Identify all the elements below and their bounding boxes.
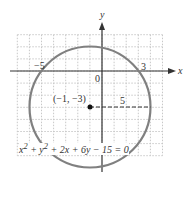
x-axis-arrow-icon	[168, 68, 176, 74]
x-axis-label: x	[178, 66, 182, 76]
equation-label: x2 + y2 + 2x + 6y − 15 = 0	[19, 143, 129, 155]
origin-label: 0	[95, 74, 100, 84]
y-axis-label: y	[100, 10, 104, 20]
grid	[17, 35, 162, 156]
center-point	[88, 105, 93, 110]
y-axis-arrow-icon	[99, 22, 105, 30]
radius-label: 5	[120, 96, 125, 106]
center-label: (−1, −3)	[53, 94, 86, 104]
coordinate-plane	[0, 0, 195, 198]
tick-label-neg5: −5	[34, 61, 45, 71]
tick-label-3: 3	[141, 62, 146, 72]
